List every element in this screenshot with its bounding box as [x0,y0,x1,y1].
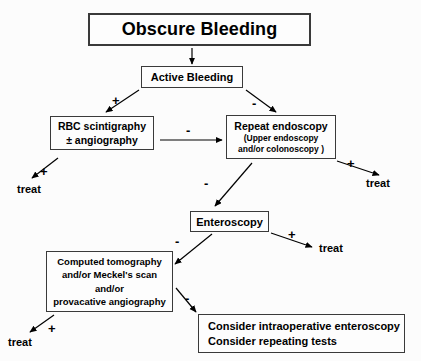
node-obscure-bleeding: Obscure Bleeding [88,13,311,46]
node-ct-line3: and/or [95,282,124,296]
outcome-treat-from-repeat: treat [366,178,390,189]
node-repeat-line1: Repeat endoscopy [234,120,327,133]
edge-enteroscopy-to-ct [175,234,212,264]
node-consider-line1: Consider intraoperative enteroscopy [199,319,404,334]
edge-label-ct-to-consider: - [185,292,189,305]
edge-label-ct-to-treat: + [48,322,56,335]
outcome-treat-from-rbc: treat [17,184,41,195]
edge-active-to-repeat [246,90,276,112]
node-active-bleeding-label: Active Bleeding [151,71,234,83]
edge-label-repeat-to-treat: + [347,157,355,170]
node-enteroscopy: Enteroscopy [190,211,269,232]
node-ct-line1: Computed tomography [57,255,162,269]
edge-repeat-to-treat [337,161,379,175]
edge-label-enteroscopy-to-treat: + [288,228,296,241]
node-rbc-scintigraphy: RBC scintigraphy ± angiography [50,116,154,150]
edge-active-to-rbc [106,90,139,112]
node-active-bleeding: Active Bleeding [141,66,243,88]
node-computed-tomography: Computed tomography and/or Meckel's scan… [46,251,173,312]
node-ct-line4: provacative angiography [53,295,165,309]
edge-label-enteroscopy-to-ct: - [175,235,179,248]
node-rbc-line2: ± angiography [66,133,138,147]
node-enteroscopy-label: Enteroscopy [196,216,263,228]
outcome-treat-from-ct: treat [8,337,32,348]
edge-label-active-to-repeat: - [252,97,256,110]
outcome-treat-from-enteroscopy: treat [319,243,343,254]
node-consider-intraoperative: Consider intraoperative enteroscopy Cons… [198,314,405,353]
edge-label-repeat-to-enteroscopy: - [204,177,208,190]
edge-repeat-to-enteroscopy [215,163,252,206]
node-repeat-line2: (Upper endoscopy [244,133,319,144]
node-ct-line2: and/or Meckel's scan [62,268,157,282]
node-repeat-endoscopy: Repeat endoscopy (Upper endoscopy and/or… [226,115,336,159]
node-repeat-line3: and/or colonoscopy ) [238,144,324,155]
node-consider-line2: Consider repeating tests [199,334,404,349]
edge-label-rbc-to-treat: + [40,165,48,178]
flowchart-canvas: Obscure Bleeding Active Bleeding RBC sci… [0,0,421,361]
edge-label-rbc-to-repeat: - [186,124,190,137]
edge-label-active-to-rbc: + [112,94,120,107]
node-rbc-line1: RBC scintigraphy [58,119,146,133]
node-title-label: Obscure Bleeding [122,19,278,40]
